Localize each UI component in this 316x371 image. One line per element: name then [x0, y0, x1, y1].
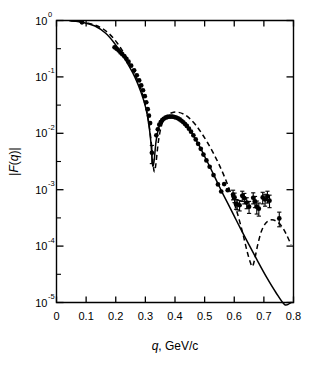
x-tick-label: 0.7 — [256, 310, 271, 322]
data-point — [142, 94, 147, 99]
data-point — [137, 78, 142, 83]
data-point — [126, 59, 131, 64]
data-point — [144, 100, 149, 105]
y-tick-label: 10 — [35, 71, 47, 83]
data-point — [139, 83, 144, 88]
x-tick-label: 0.8 — [286, 310, 301, 322]
data-point — [134, 73, 139, 78]
y-tick-exponent: -1 — [48, 66, 55, 75]
y-tick-label: 10 — [35, 184, 47, 196]
data-point — [148, 121, 153, 126]
data-point — [191, 133, 196, 138]
data-point — [256, 206, 261, 211]
x-axis-title: q, GeV/c — [152, 339, 199, 353]
y-tick-label: 10 — [35, 297, 47, 309]
y-tick-exponent: -4 — [48, 236, 55, 245]
data-point — [277, 216, 282, 221]
data-point — [141, 88, 146, 93]
y-tick-exponent: 0 — [48, 10, 52, 19]
x-tick-label: 0.1 — [78, 310, 93, 322]
data-point — [198, 147, 203, 152]
data-point — [154, 133, 159, 138]
y-tick-label: 10 — [35, 240, 47, 252]
data-point — [196, 142, 201, 147]
x-tick-label: 0.2 — [108, 310, 123, 322]
x-axis-tick-labels: 00.10.20.30.40.50.60.70.8 — [53, 310, 301, 322]
x-tick-label: 0.3 — [138, 310, 153, 322]
data-point — [150, 151, 155, 156]
y-tick-exponent: -2 — [48, 123, 55, 132]
data-point — [216, 182, 221, 187]
y-tick-exponent: -3 — [48, 179, 55, 188]
data-point — [201, 152, 206, 157]
data-point — [267, 198, 272, 203]
y-tick-label: 10 — [35, 15, 47, 27]
form-factor-figure: 00.10.20.30.40.50.60.70.8 10010-110-210-… — [0, 0, 316, 371]
y-tick-label: 10 — [35, 127, 47, 139]
data-point — [80, 20, 85, 25]
data-point — [155, 127, 160, 132]
data-point — [193, 137, 198, 142]
data-point — [129, 63, 134, 68]
data-point — [225, 188, 230, 193]
data-point — [147, 113, 152, 118]
data-point — [247, 204, 252, 209]
data-point — [222, 182, 227, 187]
data-point — [132, 68, 137, 73]
data-point — [145, 107, 150, 112]
x-tick-label: 0.5 — [197, 310, 212, 322]
x-tick-label: 0.6 — [227, 310, 242, 322]
x-tick-label: 0 — [53, 310, 59, 322]
y-axis-title: |F(q)| — [7, 147, 21, 175]
y-tick-exponent: -5 — [48, 292, 55, 301]
x-axis-title-units: , GeV/c — [158, 339, 198, 353]
x-tick-label: 0.4 — [167, 310, 182, 322]
data-point — [237, 203, 242, 208]
data-point — [204, 158, 209, 163]
data-point — [207, 164, 212, 169]
data-point — [211, 173, 216, 178]
data-point — [219, 189, 224, 194]
